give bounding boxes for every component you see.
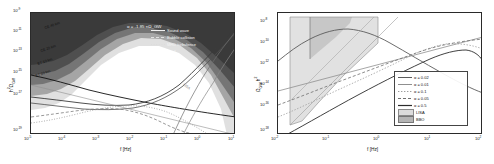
legend-swatch-alpha-05 xyxy=(398,103,412,108)
left-ytick-0: 10-9 xyxy=(13,9,20,14)
legend-label-alpha-005: α = 0.05 xyxy=(414,97,429,101)
right-yaxis-title: ΩGW h2 xyxy=(256,77,261,92)
legend-item-bubble-collision: Bubble collision xyxy=(151,34,196,41)
left-panel: CE 40 km CE 20 km ET 10 km ET 20 km LISA… xyxy=(0,0,247,164)
left-xtick-6: 101 xyxy=(228,137,234,142)
legend-swatch-alpha-005 xyxy=(398,96,412,101)
right-ytick-5: 10-18 xyxy=(260,128,269,133)
left-ytick-5: 10-19 xyxy=(13,128,22,133)
two-panel-gw-figure: CE 40 km CE 20 km ET 10 km ET 20 km LISA… xyxy=(0,0,494,164)
legend-item-alpha-05: α = 0.5 xyxy=(398,102,464,109)
legend-swatch-alpha-01 xyxy=(398,89,412,94)
right-ytick-2: 10-12 xyxy=(260,61,269,66)
legend-item-alpha-01: α = 0.1 xyxy=(398,88,464,95)
left-xtick-1: 10-4 xyxy=(58,137,65,142)
legend-label-alpha-05: α = 0.5 xyxy=(414,104,426,108)
left-ytick-1: 10-11 xyxy=(13,29,22,34)
right-xaxis-title: f [Hz] xyxy=(367,148,378,153)
right-xtick-3: 101 xyxy=(424,137,430,142)
legend-item-alpha-005: α = 0.05 xyxy=(398,95,464,102)
legend-swatch-bubble-collision xyxy=(151,35,165,40)
left-legend: Sound wave Bubble collision MHD turbulen… xyxy=(151,27,196,55)
left-ytick-4: 10-17 xyxy=(13,92,22,97)
right-panel: α = 0.02 α = 0.01 α = 0.1 xyxy=(247,0,494,164)
left-xtick-4: 10-1 xyxy=(160,137,167,142)
right-ytick-4: 10-16 xyxy=(260,103,269,108)
right-xtick-1: 10-1 xyxy=(322,137,329,142)
left-yaxis-title: h2ΩGW xyxy=(9,78,14,92)
left-xtick-5: 100 xyxy=(194,137,200,142)
right-xtick-0: 10-2 xyxy=(271,137,278,142)
right-xtick-2: 100 xyxy=(373,137,379,142)
left-xtick-0: 10-5 xyxy=(24,137,31,142)
legend-item-mhd-turbulence: MHD turbulence xyxy=(151,41,196,48)
legend-item-lisa: LISA xyxy=(398,109,464,116)
left-plot-area: CE 40 km CE 20 km ET 10 km ET 20 km LISA… xyxy=(30,12,235,134)
legend-item-bbo: BBO xyxy=(398,116,464,123)
legend-label-alpha-01: α = 0.1 xyxy=(414,90,426,94)
legend-label-alpha-001: α = 0.01 xyxy=(414,83,429,87)
legend-label-alpha-002: α = 0.02 xyxy=(414,76,429,80)
sensitivity-line-diagonal xyxy=(31,85,234,133)
left-ytick-2: 10-13 xyxy=(13,49,22,54)
legend-item-total: Total xyxy=(151,48,196,55)
right-ytick-1: 10-10 xyxy=(260,40,269,45)
legend-item-alpha-001: α = 0.01 xyxy=(398,81,464,88)
left-plot-svg xyxy=(31,13,234,133)
left-xtick-3: 10-2 xyxy=(126,137,133,142)
series-mhd-turbulence xyxy=(31,106,209,133)
right-legend: α = 0.02 α = 0.01 α = 0.1 xyxy=(394,71,468,126)
legend-swatch-mhd-turbulence xyxy=(151,42,165,47)
left-xtick-2: 10-3 xyxy=(92,137,99,142)
right-xtick-4: 102 xyxy=(475,137,481,142)
legend-label-mhd-turbulence: MHD turbulence xyxy=(167,43,196,47)
legend-swatch-total xyxy=(151,49,165,54)
left-ytick-3: 10-15 xyxy=(13,70,22,75)
legend-label-bbo: BBO xyxy=(416,118,424,122)
legend-swatch-alpha-002 xyxy=(398,75,412,80)
left-xaxis-title: f [Hz] xyxy=(120,148,131,153)
legend-label-lisa: LISA xyxy=(416,111,425,115)
legend-swatch-alpha-001 xyxy=(398,82,412,87)
legend-swatch-lisa xyxy=(398,109,414,116)
legend-swatch-sound-wave xyxy=(151,28,165,33)
legend-item-sound-wave: Sound wave xyxy=(151,27,196,34)
right-ytick-0: 10-8 xyxy=(260,19,267,24)
right-plot-area: α = 0.02 α = 0.01 α = 0.1 xyxy=(277,12,482,134)
legend-item-alpha-002: α = 0.02 xyxy=(398,74,464,81)
legend-label-sound-wave: Sound wave xyxy=(167,29,189,33)
legend-swatch-bbo xyxy=(398,116,414,123)
legend-label-total: Total xyxy=(167,50,175,54)
legend-label-bubble-collision: Bubble collision xyxy=(167,36,195,40)
